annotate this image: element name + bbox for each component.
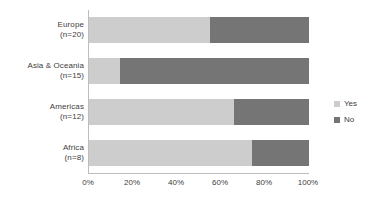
category-label-count: (n=15) [0, 71, 84, 81]
plot-area [88, 10, 309, 173]
category-label-count: (n=12) [0, 112, 84, 122]
bar-row [89, 58, 309, 84]
chart-legend: YesNo [334, 96, 390, 128]
category-axis-labels: Europe(n=20)Asia & Oceania(n=15)Americas… [0, 10, 84, 173]
legend-label: No [344, 115, 354, 125]
x-tick-label: 40% [156, 177, 196, 188]
stacked-bar-chart: Europe(n=20)Asia & Oceania(n=15)Americas… [0, 0, 391, 205]
legend-item-no[interactable]: No [334, 112, 390, 128]
category-label-africa: Africa(n=8) [0, 143, 84, 163]
bar-segment-no [252, 140, 309, 166]
bar-segment-no [234, 99, 309, 125]
bar-segment-yes [89, 99, 234, 125]
x-tick-label: 100% [288, 177, 328, 188]
x-axis-tick-labels: 0%20%40%60%80%100% [88, 177, 309, 191]
bar-row [89, 140, 309, 166]
bar-row [89, 17, 309, 43]
bar-segment-yes [89, 17, 210, 43]
bar-segment-no [120, 58, 309, 84]
category-label-count: (n=20) [0, 30, 84, 40]
legend-item-yes[interactable]: Yes [334, 96, 390, 112]
x-tick-label: 20% [112, 177, 152, 188]
x-tick-label: 80% [244, 177, 284, 188]
category-label-europe: Europe(n=20) [0, 20, 84, 40]
category-label-asia-oceania: Asia & Oceania(n=15) [0, 61, 84, 81]
category-label-name: Europe [0, 20, 84, 30]
legend-swatch-icon [334, 117, 340, 123]
category-label-name: Asia & Oceania [0, 61, 84, 71]
bar-segment-yes [89, 140, 252, 166]
category-label-americas: Americas(n=12) [0, 102, 84, 122]
x-tick-label: 60% [200, 177, 240, 188]
bar-row [89, 99, 309, 125]
bar-segment-no [210, 17, 309, 43]
category-label-name: Africa [0, 143, 84, 153]
x-axis-line [88, 173, 309, 174]
category-label-count: (n=8) [0, 153, 84, 163]
legend-label: Yes [344, 99, 357, 109]
legend-swatch-icon [334, 101, 340, 107]
x-tick-label: 0% [68, 177, 108, 188]
bar-segment-yes [89, 58, 120, 84]
category-label-name: Americas [0, 102, 84, 112]
